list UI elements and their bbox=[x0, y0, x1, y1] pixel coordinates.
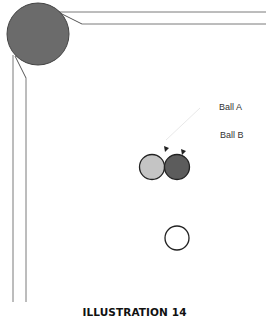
ball-a-label: Ball A bbox=[219, 102, 242, 112]
ball-a bbox=[140, 155, 165, 180]
ball-b-arrow-icon bbox=[181, 149, 186, 155]
cue-ball bbox=[165, 226, 189, 250]
ball-a-arrow-icon bbox=[164, 146, 169, 152]
ball-a-pointer-line bbox=[166, 108, 200, 140]
ball-b-label: Ball B bbox=[220, 130, 244, 140]
corner-pocket bbox=[7, 3, 69, 65]
pool-table-diagram bbox=[0, 0, 269, 322]
ball-b bbox=[165, 155, 190, 180]
illustration-caption: ILLUSTRATION 14 bbox=[0, 306, 269, 318]
